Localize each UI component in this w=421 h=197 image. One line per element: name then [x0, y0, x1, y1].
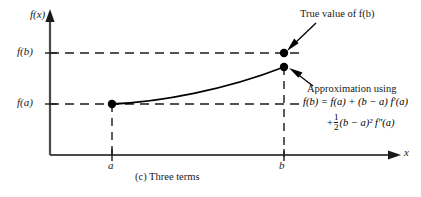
y-tick-label-fa: f(a)	[17, 96, 33, 109]
annotation-true-value: True value of f(b)	[300, 8, 375, 20]
fraction-denominator: 2	[334, 122, 339, 132]
point-true-value-f-b	[280, 49, 288, 57]
point-a-f-a	[108, 100, 116, 108]
x-axis-arrowhead	[388, 150, 401, 159]
x-axis-label: x	[404, 146, 409, 159]
formula-second-order: +12(b − a)² f″(a)	[327, 113, 395, 132]
y-axis-arrowhead	[45, 9, 54, 22]
x-tick-label-b: b	[279, 159, 285, 172]
formula-second-order-rest: (b − a)² f″(a)	[339, 117, 394, 128]
point-approximation-f-b	[280, 63, 288, 71]
y-axis-label: f(x)	[30, 8, 45, 21]
function-curve	[112, 67, 284, 104]
fraction-numerator: 1	[334, 113, 339, 122]
formula-one-half-fraction: 12	[334, 113, 339, 132]
formula-plus-sign: +	[327, 117, 333, 128]
x-tick-label-a: a	[108, 159, 114, 172]
y-tick-label-fb: f(b)	[17, 45, 33, 58]
annotation-approximation: Approximation using	[307, 83, 397, 95]
formula-first-order: f(b) = f(a) + (b − a) f′(a)	[303, 96, 408, 107]
figure-caption: (c) Three terms	[135, 171, 200, 183]
